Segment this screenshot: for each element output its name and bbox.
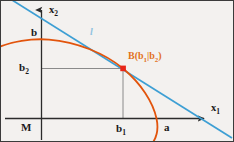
y-axis-label-sub: 2 — [54, 9, 58, 18]
y-axis-label: x2 — [49, 5, 58, 16]
point-b-marker — [120, 66, 126, 72]
label-b1-tick: b1 — [116, 123, 126, 134]
label-point-b: B(b1|b2) — [128, 51, 162, 61]
label-point-b-main: B(b — [128, 50, 144, 61]
label-point-b-sub1: 1 — [144, 56, 148, 64]
figure-graphics — [1, 1, 234, 142]
label-line-l: l — [90, 27, 93, 37]
label-a-tick: a — [164, 122, 170, 133]
x-axis-label: x1 — [211, 103, 220, 114]
label-b2-sub: 2 — [25, 67, 29, 76]
label-point-b-end: ) — [158, 50, 161, 61]
label-b2-tick: b2 — [19, 62, 29, 73]
label-origin-m: M — [21, 122, 31, 133]
figure-canvas: x2 x1 b b2 M b1 a l B(b1|b2) — [0, 0, 234, 142]
x-axis-label-sub: 1 — [216, 107, 220, 116]
label-b-intercept: b — [31, 27, 37, 38]
label-b1-sub: 1 — [122, 128, 126, 137]
label-point-b-mid: |b — [147, 50, 155, 61]
label-point-b-sub2: 2 — [155, 56, 159, 64]
